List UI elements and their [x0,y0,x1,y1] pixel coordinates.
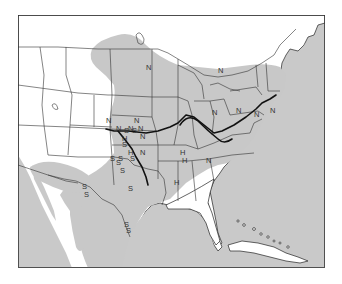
marker-h: H [182,156,187,165]
marker-n: N [218,66,223,75]
marker-s: S [122,140,127,149]
marker-n: N [206,156,211,165]
marker-s: S [110,154,115,163]
marker-n: N [116,124,121,133]
map-canvas: NNNNNNNNNSNSNNHSSHNSSSSSSSSSHHHN [18,15,325,268]
marker-n: N [146,63,151,72]
marker-n: N [236,106,241,115]
marker-s: S [120,166,125,175]
marker-n: N [270,106,275,115]
marker-n: N [106,116,111,125]
marker-s: S [126,226,131,235]
map: NNNNNNNNNSNSNNHSSHNSSSSSSSSSHHHN [18,15,325,268]
marker-n: N [212,108,217,117]
marker-s: S [84,190,89,199]
marker-s: S [132,126,137,135]
marker-h: H [174,178,179,187]
marker-n: N [140,132,145,141]
marker-h: H [128,148,133,157]
marker-n: N [254,110,259,119]
marker-s: S [128,184,133,193]
marker-n: N [140,148,145,157]
